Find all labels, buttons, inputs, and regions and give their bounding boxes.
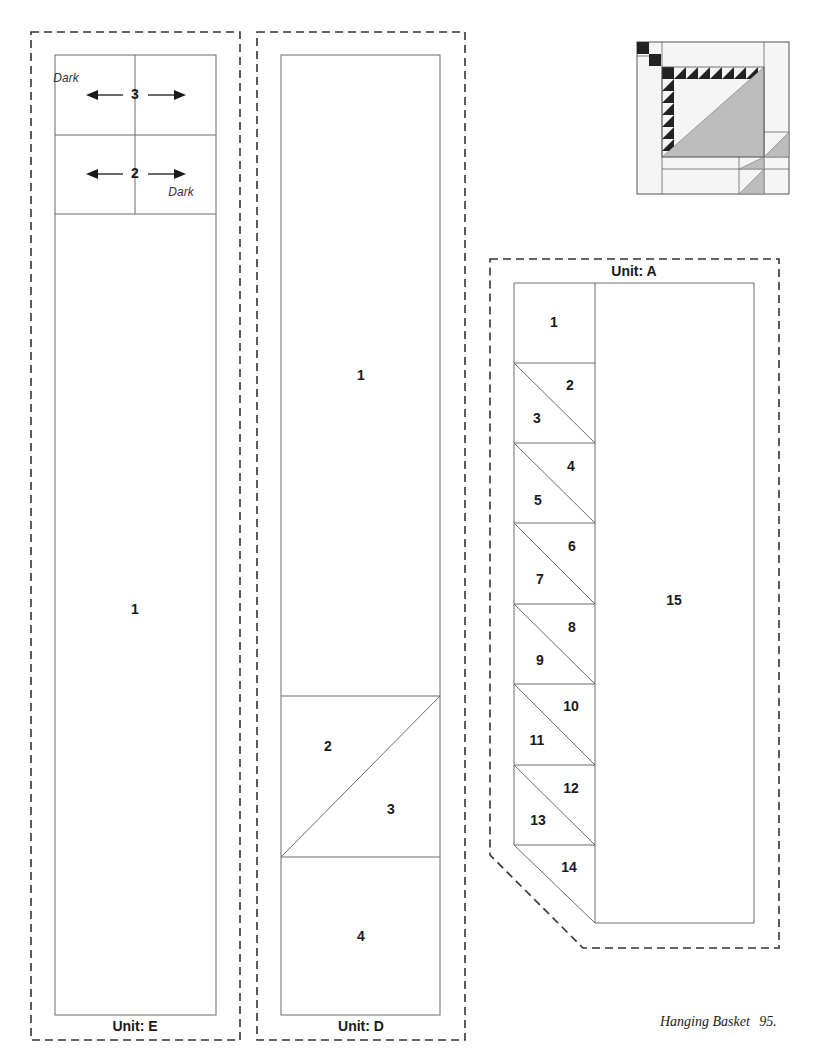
page-number: 95. (759, 1014, 777, 1029)
unit-a-piece-12: 12 (563, 780, 579, 796)
unit-d-piece-4: 4 (357, 928, 365, 944)
unit-a-piece-7: 7 (536, 571, 544, 587)
unit-a-piece-2: 2 (566, 377, 574, 393)
unit-a-piece-8: 8 (568, 619, 576, 635)
unit-a-label: Unit: A (611, 263, 656, 279)
page-footer: Hanging Basket 95. (660, 1014, 810, 1030)
unit-a-piece-10: 10 (563, 698, 579, 714)
unit-a-piece-13: 13 (530, 812, 546, 828)
pattern-sheet: Dark 3 2 Dark 1 Unit: E 1 2 3 4 Unit: D (0, 0, 817, 1056)
unit-d-piece-1: 1 (357, 367, 365, 383)
unit-a-piece-4: 4 (567, 458, 575, 474)
unit-a-piece-5: 5 (534, 492, 542, 508)
unit-a-piece-11: 11 (530, 732, 545, 748)
unit-a-piece-9: 9 (536, 652, 544, 668)
unit-a-piece-6: 6 (568, 538, 576, 554)
unit-d-outline (281, 55, 440, 1015)
unit-a-piece-3: 3 (533, 410, 541, 426)
unit-e-piece-3: 3 (131, 86, 139, 102)
unit-e-piece-1: 1 (131, 601, 139, 617)
unit-a: Unit: A 1 2 3 4 5 6 7 8 9 10 11 12 13 14… (490, 259, 779, 948)
unit-a-piece-14: 14 (561, 859, 577, 875)
unit-d-label: Unit: D (338, 1018, 384, 1034)
dark-note-3: Dark (53, 71, 79, 85)
unit-e-piece-2: 2 (131, 165, 139, 181)
unit-a-outline (514, 283, 754, 923)
footer-title: Hanging Basket (660, 1014, 750, 1029)
block-thumbnail (637, 42, 789, 194)
dark-note-2: Dark (168, 185, 194, 199)
unit-d-piece-3: 3 (387, 801, 395, 817)
unit-a-piece-1: 1 (550, 314, 558, 330)
unit-d: 1 2 3 4 Unit: D (257, 32, 465, 1040)
unit-d-piece-2: 2 (324, 738, 332, 754)
unit-e-label: Unit: E (112, 1018, 157, 1034)
unit-a-piece-15: 15 (666, 592, 682, 608)
unit-e: Dark 3 2 Dark 1 Unit: E (31, 32, 240, 1040)
